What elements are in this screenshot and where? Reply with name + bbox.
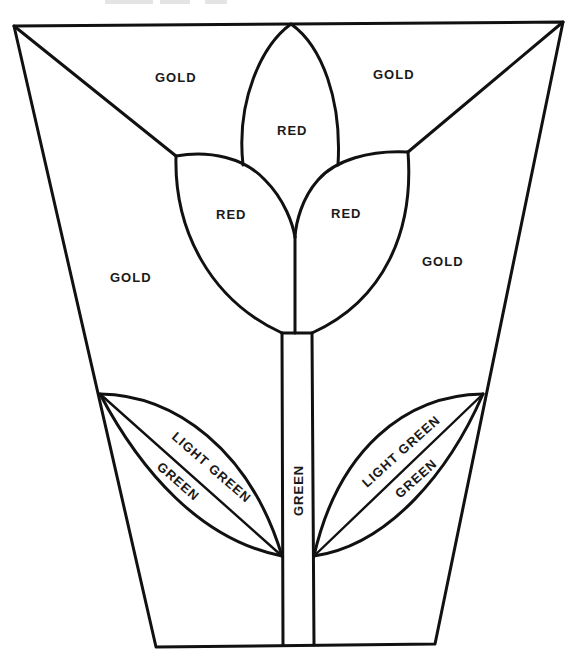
petal-center-outline — [242, 24, 339, 165]
stem-left-edge — [282, 333, 283, 645]
tulip-quilt-pattern: GOLD GOLD RED RED RED GOLD GOLD GREEN LI… — [0, 0, 577, 660]
label-gold-left: GOLD — [110, 270, 152, 285]
label-red-right: RED — [331, 206, 361, 221]
petal-right-outline — [295, 152, 408, 237]
petal-right-lower — [312, 152, 409, 333]
label-red-left: RED — [216, 207, 246, 222]
petal-left-outline — [176, 154, 295, 237]
label-red-center: RED — [277, 123, 307, 138]
label-gold-right: GOLD — [422, 254, 464, 269]
leaf-left-midrib — [100, 394, 282, 556]
label-leaf-right-light-green: LIGHT GREEN — [359, 412, 443, 490]
label-gold-top-left: GOLD — [155, 70, 197, 85]
stem-right-edge — [312, 333, 314, 645]
label-gold-top-right: GOLD — [373, 67, 415, 82]
header-partial — [105, 0, 227, 4]
label-stem-green: GREEN — [291, 465, 306, 516]
